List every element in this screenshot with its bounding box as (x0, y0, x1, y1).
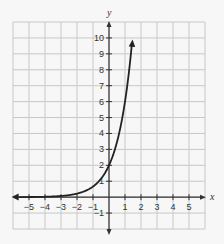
x-tick-label: −4 (40, 202, 50, 212)
y-tick-label: 3 (99, 144, 104, 154)
x-tick-label: 1 (122, 202, 127, 212)
function-curve (19, 46, 132, 197)
tick-labels: −5−4−3−2−112345−112345678910 (24, 33, 192, 218)
exponential-graph: −5−4−3−2−112345−112345678910 x y (0, 0, 224, 244)
y-tick-label: −1 (94, 208, 104, 218)
x-axis-label: x (209, 191, 215, 202)
y-tick-label: 5 (99, 113, 104, 123)
x-tick-label: 3 (154, 202, 159, 212)
y-tick-label: 4 (99, 128, 104, 138)
curve-up-arrow-icon (129, 40, 136, 48)
x-tick-label: −2 (72, 202, 82, 212)
y-tick-label: 8 (99, 65, 104, 75)
y-tick-label: 2 (99, 160, 104, 170)
x-tick-label: −3 (56, 202, 66, 212)
y-tick-label: 7 (99, 81, 104, 91)
y-tick-label: 6 (99, 97, 104, 107)
y-axis-down-arrow-icon (107, 229, 112, 235)
x-tick-label: 4 (170, 202, 175, 212)
y-axis-label: y (106, 7, 112, 18)
x-tick-label: 2 (138, 202, 143, 212)
x-tick-label: 5 (186, 202, 191, 212)
x-tick-label: −5 (24, 202, 34, 212)
y-tick-label: 10 (94, 33, 104, 43)
y-tick-label: 9 (99, 49, 104, 59)
